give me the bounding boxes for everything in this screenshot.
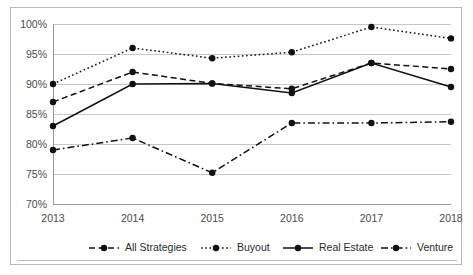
data-point [368, 120, 374, 126]
data-point [129, 69, 135, 75]
legend-marker [213, 245, 219, 251]
data-point [289, 49, 295, 55]
data-point [50, 123, 56, 129]
gridlines [53, 24, 451, 204]
data-point [448, 119, 454, 125]
series-line [53, 63, 451, 126]
series-real-estate [50, 60, 454, 129]
series-line [53, 27, 451, 84]
data-point [50, 99, 56, 105]
data-point [129, 45, 135, 51]
data-point [289, 120, 295, 126]
y-axis-tick-label: 95% [26, 48, 47, 60]
legend-marker [295, 245, 301, 251]
data-point [129, 81, 135, 87]
chart-container: 70%75%80%85%90%95%100% 20132014201520162… [10, 7, 462, 265]
data-point [50, 81, 56, 87]
x-axis-tick-label: 2017 [360, 212, 384, 224]
series-line [53, 122, 451, 173]
y-axis-tick-label: 100% [20, 18, 47, 30]
data-point [448, 35, 454, 41]
legend-item-all-strategies[interactable]: All Strategies [89, 241, 187, 253]
legend-label: Venture [417, 241, 453, 253]
y-axis-tick-label: 85% [26, 108, 47, 120]
x-axis-tick-label: 2014 [121, 212, 145, 224]
x-axis-tick-labels: 201320142015201620172018 [41, 212, 463, 224]
data-point [50, 147, 56, 153]
legend-item-venture[interactable]: Venture [381, 241, 453, 253]
x-axis-tick-label: 2015 [201, 212, 225, 224]
series-venture [50, 119, 454, 176]
legend-label: All Strategies [125, 241, 187, 253]
data-point [289, 90, 295, 96]
legend-item-buyout[interactable]: Buyout [201, 241, 270, 253]
x-axis-tick-label: 2013 [41, 212, 65, 224]
data-point [129, 135, 135, 141]
legend-label: Real Estate [319, 241, 373, 253]
series-buyout [50, 24, 454, 87]
y-axis-tick-labels: 70%75%80%85%90%95%100% [20, 18, 47, 210]
legend-label: Buyout [237, 241, 270, 253]
y-axis-tick-label: 70% [26, 198, 47, 210]
legend-item-real-estate[interactable]: Real Estate [283, 241, 373, 253]
x-axis-tick-label: 2016 [280, 212, 304, 224]
data-point [209, 55, 215, 61]
data-series-group [50, 24, 454, 176]
data-point [448, 66, 454, 72]
data-point [209, 170, 215, 176]
data-point [368, 24, 374, 30]
y-axis-tick-label: 80% [26, 138, 47, 150]
chart-legend: All StrategiesBuyoutReal EstateVenture [17, 241, 457, 260]
chart-plot-area: 70%75%80%85%90%95%100% 20132014201520162… [11, 8, 463, 266]
y-axis-tick-label: 90% [26, 78, 47, 90]
legend-marker [101, 245, 107, 251]
line-chart: 70%75%80%85%90%95%100% 20132014201520162… [11, 8, 463, 266]
data-point [368, 60, 374, 66]
data-point [209, 80, 215, 86]
y-axis-tick-label: 75% [26, 168, 47, 180]
data-point [448, 84, 454, 90]
legend-marker [393, 245, 399, 251]
x-axis-tick-label: 2018 [439, 212, 463, 224]
series-all-strategies [50, 60, 454, 105]
